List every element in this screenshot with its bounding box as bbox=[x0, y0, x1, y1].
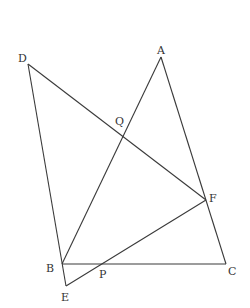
point-label-a: A bbox=[156, 44, 166, 57]
segment-de bbox=[28, 64, 66, 286]
segments-group bbox=[28, 57, 226, 286]
segment-ac bbox=[161, 57, 226, 264]
labels-group: A B C D E F P Q bbox=[18, 44, 236, 304]
segment-ab bbox=[62, 57, 161, 264]
point-label-e: E bbox=[61, 291, 69, 304]
geometry-diagram: A B C D E F P Q bbox=[0, 0, 250, 308]
segment-df bbox=[28, 64, 206, 200]
point-label-d: D bbox=[18, 52, 27, 65]
point-label-f: F bbox=[209, 192, 217, 205]
point-label-c: C bbox=[228, 265, 236, 278]
point-label-b: B bbox=[46, 262, 54, 275]
point-label-q: Q bbox=[115, 115, 124, 128]
point-label-p: P bbox=[99, 268, 107, 281]
